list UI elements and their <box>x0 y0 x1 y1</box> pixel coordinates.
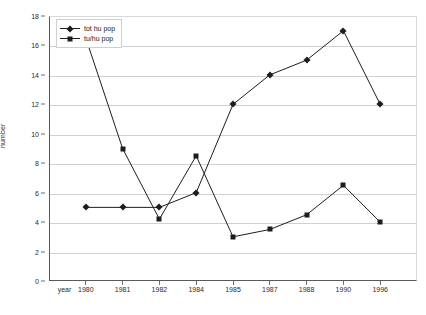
legend: tot hu poptu/hu pop <box>56 19 122 48</box>
y-tick-mark <box>41 222 45 223</box>
y-axis: 024681012141618 <box>0 16 45 281</box>
gridline <box>50 253 416 254</box>
y-tick-mark <box>41 281 45 282</box>
y-axis-title: number <box>0 124 6 148</box>
x-axis: year198019811982198419851987198819901996 <box>0 286 426 302</box>
y-tick-label: 2 <box>35 248 39 255</box>
y-tick-mark <box>41 251 45 252</box>
y-tick-label: 6 <box>35 189 39 196</box>
y-tick-mark <box>41 45 45 46</box>
x-tick-mark <box>233 281 234 285</box>
legend-marker-diamond-icon <box>66 25 73 32</box>
x-tick-mark <box>196 281 197 285</box>
line-chart: 024681012141618 number year1980198119821… <box>0 0 426 315</box>
x-tick-label: 1987 <box>262 286 278 293</box>
y-tick-label: 14 <box>31 71 39 78</box>
legend-marker-square-icon <box>68 36 73 41</box>
x-axis-caption: year <box>58 286 72 293</box>
y-tick-label: 18 <box>31 13 39 20</box>
x-tick-mark <box>269 281 270 285</box>
y-tick-label: 8 <box>35 160 39 167</box>
y-tick-label: 16 <box>31 42 39 49</box>
legend-swatch-diamond-icon <box>60 25 80 32</box>
y-tick-mark <box>41 192 45 193</box>
gridline <box>50 194 416 195</box>
x-tick-label: 1988 <box>299 286 315 293</box>
y-tick-mark <box>41 104 45 105</box>
x-tick-label: 1996 <box>372 286 388 293</box>
x-tick-label: 1985 <box>225 286 241 293</box>
y-tick-label: 4 <box>35 219 39 226</box>
y-tick-label: 10 <box>31 130 39 137</box>
y-tick-mark <box>41 133 45 134</box>
gridline <box>50 105 416 106</box>
y-tick-label: 12 <box>31 101 39 108</box>
gridline <box>50 164 416 165</box>
plot-area <box>49 16 417 281</box>
y-tick-mark <box>41 16 45 17</box>
legend-label: tu/hu pop <box>84 35 113 42</box>
y-tick-label: 0 <box>35 278 39 285</box>
x-tick-mark <box>159 281 160 285</box>
gridline <box>50 76 416 77</box>
x-tick-mark <box>306 281 307 285</box>
gridline <box>50 135 416 136</box>
legend-label: tot hu pop <box>84 25 115 32</box>
x-tick-mark <box>122 281 123 285</box>
x-tick-label: 1990 <box>336 286 352 293</box>
x-tick-label: 1981 <box>115 286 131 293</box>
legend-item: tot hu pop <box>60 24 115 33</box>
x-tick-label: 1984 <box>188 286 204 293</box>
y-tick-mark <box>41 163 45 164</box>
legend-swatch-square-icon <box>60 35 80 42</box>
x-tick-label: 1980 <box>78 286 94 293</box>
gridline <box>50 223 416 224</box>
x-tick-label: 1982 <box>152 286 168 293</box>
legend-item: tu/hu pop <box>60 34 115 43</box>
x-tick-mark <box>380 281 381 285</box>
x-tick-mark <box>343 281 344 285</box>
x-tick-mark <box>85 281 86 285</box>
y-tick-mark <box>41 74 45 75</box>
